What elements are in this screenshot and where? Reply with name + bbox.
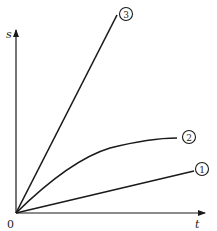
line-3 <box>16 15 117 213</box>
label-2: 2 <box>183 131 196 144</box>
label-1: 1 <box>196 163 209 176</box>
x-axis-label: t <box>195 218 200 231</box>
origin-label: 0 <box>7 218 14 231</box>
s-t-graph: s t 0 3 2 1 <box>0 0 217 231</box>
svg-text:1: 1 <box>199 165 205 175</box>
line-1 <box>16 171 194 213</box>
y-axis-label: s <box>6 28 12 41</box>
label-3: 3 <box>120 8 133 21</box>
svg-text:2: 2 <box>186 133 192 143</box>
curve-2 <box>16 138 177 213</box>
svg-text:3: 3 <box>123 10 129 20</box>
